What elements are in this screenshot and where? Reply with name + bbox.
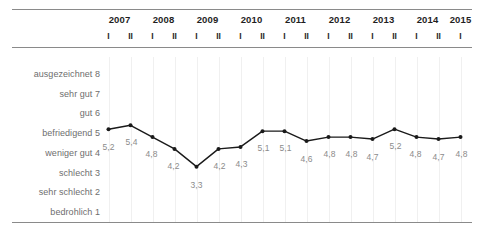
data-point-label: 3,3 xyxy=(191,180,203,190)
data-point xyxy=(415,135,419,139)
half-year-tick-1: II xyxy=(128,31,133,41)
half-year-tick-5: II xyxy=(216,31,221,41)
data-point-label: 4,8 xyxy=(324,149,336,159)
half-year-tick-11: II xyxy=(348,31,353,41)
data-point-label: 5,1 xyxy=(258,143,270,153)
half-year-tick-15: II xyxy=(436,31,441,41)
chart-container: 200720082009201020112012201320142015 III… xyxy=(0,0,484,235)
half-year-tick-13: II xyxy=(392,31,397,41)
data-point-label: 5,1 xyxy=(280,143,292,153)
half-year-tick-12: I xyxy=(371,31,373,41)
half-year-tick-14: I xyxy=(415,31,417,41)
data-point xyxy=(151,135,155,139)
data-point xyxy=(393,127,397,131)
half-year-tick-3: II xyxy=(172,31,177,41)
half-year-tick-0: I xyxy=(107,31,109,41)
data-point xyxy=(107,127,111,131)
data-point xyxy=(239,145,243,149)
data-point-label: 4,2 xyxy=(214,161,226,171)
data-point-label: 5,2 xyxy=(103,142,115,152)
data-point xyxy=(261,129,265,133)
data-point xyxy=(327,135,331,139)
plot-area: ausgezeichnet 8sehr gut 7gut 6befriedige… xyxy=(0,47,484,222)
data-point-label: 4,2 xyxy=(168,161,180,171)
data-point xyxy=(195,165,199,169)
half-year-tick-4: I xyxy=(195,31,197,41)
data-point-label: 5,2 xyxy=(390,141,402,151)
data-point xyxy=(349,135,353,139)
half-year-axis-header: IIIIIIIIIIIIIIIIIIIIIIIII xyxy=(0,0,484,47)
half-year-tick-7: II xyxy=(260,31,265,41)
half-year-tick-2: I xyxy=(151,31,153,41)
data-point xyxy=(283,129,287,133)
data-point xyxy=(305,139,309,143)
half-year-tick-16: I xyxy=(459,31,461,41)
half-year-tick-10: I xyxy=(327,31,329,41)
data-point xyxy=(371,137,375,141)
data-point xyxy=(437,137,441,141)
half-year-tick-9: II xyxy=(304,31,309,41)
data-point-label: 5,4 xyxy=(126,137,138,147)
data-point-label: 4,8 xyxy=(410,149,422,159)
data-point xyxy=(217,147,221,151)
data-point-label: 4,6 xyxy=(301,154,313,164)
data-point-label: 4,7 xyxy=(367,152,379,162)
bottom-divider xyxy=(12,222,472,223)
data-point-label: 4,8 xyxy=(146,149,158,159)
line-series xyxy=(0,47,484,222)
data-point xyxy=(173,147,177,151)
data-point xyxy=(129,123,133,127)
half-year-tick-8: I xyxy=(283,31,285,41)
data-point-label: 4,7 xyxy=(433,152,445,162)
data-point xyxy=(459,135,463,139)
data-point-label: 4,3 xyxy=(236,159,248,169)
half-year-tick-6: I xyxy=(239,31,241,41)
data-point-label: 4,8 xyxy=(346,149,358,159)
data-point-label: 4,8 xyxy=(456,149,468,159)
